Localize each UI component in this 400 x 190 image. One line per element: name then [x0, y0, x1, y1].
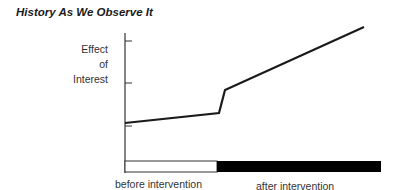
chart-plot — [0, 0, 400, 190]
before-intervention-label: before intervention — [115, 178, 202, 190]
after-intervention-bar — [217, 161, 381, 172]
before-intervention-bar — [125, 161, 217, 172]
effect-line — [125, 27, 364, 123]
after-intervention-label: after intervention — [256, 180, 334, 190]
